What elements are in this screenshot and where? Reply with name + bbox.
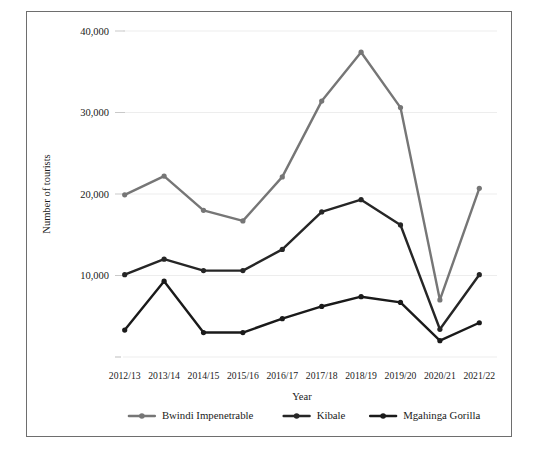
data-point-bwindi-impenetrable-2015-16 [240, 218, 245, 223]
ytick-label-30000: 30,000 [80, 107, 109, 118]
plot-area: 10,00020,00030,00040,000Number of touris… [27, 12, 511, 436]
data-point-bwindi-impenetrable-2013-14 [162, 173, 167, 178]
data-point-bwindi-impenetrable-2018-19 [359, 50, 364, 55]
data-point-kibale-2016-17 [280, 247, 285, 252]
xtick-label-2012-13: 2012/13 [109, 370, 141, 381]
data-point-mgahinga-gorilla-2017-18 [319, 304, 324, 309]
data-point-kibale-2012-13 [122, 272, 127, 277]
xtick-label-2015-16: 2015/16 [227, 370, 259, 381]
data-point-kibale-2017-18 [319, 209, 324, 214]
data-point-mgahinga-gorilla-2016-17 [280, 316, 285, 321]
data-point-kibale-2014-15 [201, 268, 206, 273]
ytick-label-10000: 10,000 [80, 270, 109, 281]
data-point-mgahinga-gorilla-2020-21 [437, 338, 442, 343]
xtick-label-2019-20: 2019/20 [385, 370, 417, 381]
data-point-bwindi-impenetrable-2016-17 [280, 174, 285, 179]
x-axis-title: Year [292, 391, 312, 402]
data-point-bwindi-impenetrable-2017-18 [319, 98, 324, 103]
xtick-label-2017-18: 2017/18 [306, 370, 338, 381]
xtick-label-2013-14: 2013/14 [148, 370, 180, 381]
data-point-bwindi-impenetrable-2012-13 [122, 192, 127, 197]
data-point-mgahinga-gorilla-2013-14 [162, 279, 167, 284]
data-point-mgahinga-gorilla-2021-22 [477, 320, 482, 325]
data-point-bwindi-impenetrable-2014-15 [201, 208, 206, 213]
data-point-mgahinga-gorilla-2018-19 [359, 294, 364, 299]
legend-marker-dot-mgahinga-gorilla [380, 413, 386, 419]
data-point-mgahinga-gorilla-2019-20 [398, 300, 403, 305]
legend-marker-dot-bwindi-impenetrable [139, 413, 145, 419]
xtick-label-2020-21: 2020/21 [424, 370, 456, 381]
legend-label-bwindi-impenetrable: Bwindi Impenetrable [162, 409, 254, 421]
legend-label-mgahinga-gorilla: Mgahinga Gorilla [403, 409, 480, 421]
y-axis-title: Number of tourists [41, 154, 52, 233]
data-point-kibale-2018-19 [359, 197, 364, 202]
ytick-label-40000: 40,000 [80, 26, 109, 37]
data-point-kibale-2020-21 [437, 327, 442, 332]
xtick-label-2021-22: 2021/22 [463, 370, 495, 381]
data-point-kibale-2013-14 [162, 257, 167, 262]
xtick-label-2014-15: 2014/15 [188, 370, 220, 381]
data-point-bwindi-impenetrable-2019-20 [398, 105, 403, 110]
data-point-bwindi-impenetrable-2021-22 [477, 186, 482, 191]
data-point-bwindi-impenetrable-2020-21 [437, 297, 442, 302]
ytick-label-20000: 20,000 [80, 189, 109, 200]
series-line-kibale [125, 200, 480, 330]
line-chart-svg: 10,00020,00030,00040,000Number of touris… [27, 12, 511, 436]
chart-figure: 10,00020,00030,00040,000Number of touris… [26, 11, 512, 437]
data-point-kibale-2015-16 [240, 268, 245, 273]
legend-marker-dot-kibale [294, 413, 300, 419]
data-point-mgahinga-gorilla-2012-13 [122, 328, 127, 333]
data-point-mgahinga-gorilla-2014-15 [201, 330, 206, 335]
data-point-kibale-2019-20 [398, 222, 403, 227]
data-point-kibale-2021-22 [477, 272, 482, 277]
xtick-label-2018-19: 2018/19 [345, 370, 377, 381]
legend-label-kibale: Kibale [317, 409, 346, 421]
data-point-mgahinga-gorilla-2015-16 [240, 330, 245, 335]
xtick-label-2016-17: 2016/17 [266, 370, 298, 381]
